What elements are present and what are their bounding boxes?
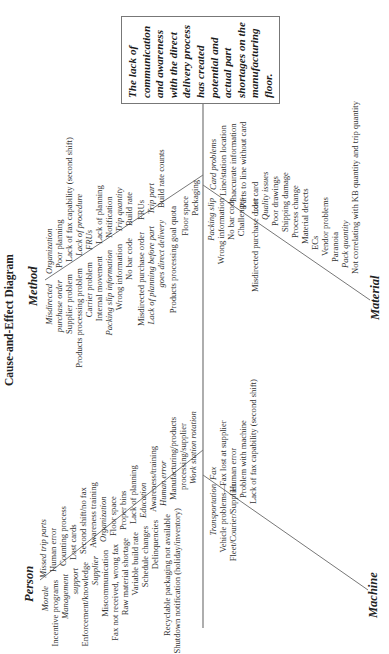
cause-item: Fax lost at supplier xyxy=(218,420,228,486)
cause-item: Card problems xyxy=(208,139,218,190)
cause-item: Organization xyxy=(98,496,108,542)
cause-item: Second shift/no fax xyxy=(78,487,88,554)
cause-item: Fax xyxy=(208,467,218,480)
category-person: Person xyxy=(22,566,37,602)
cause-item: Trip part xyxy=(146,183,156,214)
cause-item: Lack of planning xyxy=(94,185,104,244)
cause-item: Products processing problem xyxy=(74,268,84,368)
cause-item: Shutdown notification (holiday/inventory… xyxy=(172,508,182,654)
cause-item: Process change xyxy=(290,185,300,238)
cause-item: Not correlating with KB quantity and tri… xyxy=(350,101,360,274)
cause-item: Lost cards xyxy=(68,524,78,560)
cause-item: Lack of procedure xyxy=(74,194,84,256)
cause-item: Morale xyxy=(40,586,50,611)
cause-item: Recyclable packaging not available xyxy=(162,514,172,636)
cause-item: Management xyxy=(60,574,70,619)
cause-item: Lack of planning before part xyxy=(146,226,156,325)
cause-item: Missed trip parts xyxy=(38,519,48,578)
cause-item: Packing slip information xyxy=(104,250,114,335)
cause-item: Lost card xyxy=(250,182,260,214)
category-machine: Machine xyxy=(366,572,381,618)
cause-item: Internal movement xyxy=(94,256,104,321)
cause-item: Poor drawings xyxy=(270,176,280,226)
cause-item: processing/supplier xyxy=(178,423,188,490)
cause-item: support xyxy=(70,568,80,594)
cause-item: Wrong information xyxy=(216,198,226,264)
cause-item: Notification xyxy=(104,196,114,238)
diagram-title: Cause-and-Effect Diagram xyxy=(3,240,15,400)
cause-item: Awareness/training xyxy=(148,446,158,512)
cause-item: Quality issues xyxy=(260,172,270,220)
cause-item: Incentive programs xyxy=(50,580,60,647)
cause-item: Variable build rate xyxy=(130,532,140,595)
cause-item: Inaccurate information xyxy=(228,124,238,203)
cause-item: Misdirected purchase order xyxy=(136,232,146,326)
cause-item: Manufacturing/products xyxy=(168,417,178,500)
cause-item: Problem with machine xyxy=(238,420,248,498)
cause-item: Trip quantity xyxy=(114,187,124,232)
cause-item: Floor space xyxy=(180,196,190,236)
cause-item: Lack of fax capability (second shift) xyxy=(248,379,258,504)
cause-item: purchase order xyxy=(54,280,64,332)
cause-item: Wrong information xyxy=(114,244,124,310)
cause-item: No bar code xyxy=(124,238,134,280)
cause-item: Line/station location xyxy=(218,125,228,196)
cause-item: FRUs xyxy=(84,230,94,250)
cause-item: Proper bins xyxy=(118,491,128,530)
cause-item: Enforcement/knowledge xyxy=(80,562,90,646)
cause-item: Miscommunication xyxy=(100,550,110,617)
cause-item: FRUs xyxy=(136,200,146,220)
cause-item: Packing slip xyxy=(206,198,216,241)
cause-item: No bar code xyxy=(226,198,236,240)
cause-item: Awareness training xyxy=(88,482,98,548)
cause-item: Build rate xyxy=(124,192,134,226)
cause-item: Floor space xyxy=(108,496,118,536)
cause-item: Paranoia xyxy=(330,232,340,262)
cause-item: Lack of planning xyxy=(128,465,138,524)
cause-item: Human error xyxy=(158,461,168,506)
cause-item: Human error xyxy=(228,448,238,492)
category-method: Method xyxy=(26,266,41,306)
cause-item: Build rate counts xyxy=(156,149,166,208)
cause-item: Supplier problem xyxy=(64,274,74,334)
cause-item: Poor planning xyxy=(54,220,64,268)
cause-item: Education xyxy=(138,483,148,518)
cause-item: Products processing goal quota xyxy=(168,206,178,313)
cause-item: Fax not received, wrong fax xyxy=(110,544,120,641)
cause-item: Organization xyxy=(44,228,54,274)
cause-item: Transportation xyxy=(208,484,218,536)
cause-item: Parts to line without card xyxy=(238,122,248,208)
cause-item: Pack quantity xyxy=(340,221,350,269)
cause-item: Vehicle problems— xyxy=(218,484,228,553)
category-material: Material xyxy=(368,276,383,320)
cause-item: Schedule changes xyxy=(140,526,150,587)
cause-item: Lack of fax capability (second shift) xyxy=(64,137,74,262)
cause-item: Counting process xyxy=(58,506,68,566)
cause-item: Work station rotation xyxy=(188,411,198,484)
cause-item: Human error xyxy=(48,528,58,572)
cause-item: Carrier problem xyxy=(84,262,94,317)
cause-item: Supplier xyxy=(90,556,100,585)
effect-box: The lack of communication and awareness … xyxy=(121,16,280,104)
cause-item: Fleet/Courier/Supplier xyxy=(228,484,238,561)
cause-item: Misdirected xyxy=(44,284,54,325)
cause-item: Raw material shortage xyxy=(120,538,130,615)
cause-item: goes direct delivery xyxy=(156,220,166,287)
cause-item: Delinquencies xyxy=(150,520,160,569)
cause-item: ECs xyxy=(310,236,320,250)
cause-item: Vendor problems xyxy=(320,197,330,256)
cause-item: Packaging xyxy=(190,180,200,216)
cause-item: Shipping damage xyxy=(280,172,290,232)
cause-item: Material defects xyxy=(300,188,310,244)
